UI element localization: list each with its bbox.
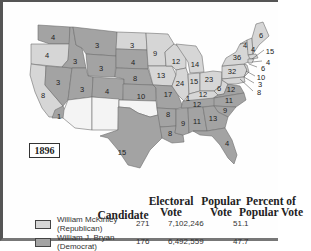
state-vote-label-fl: 4 <box>225 139 229 148</box>
state-vote-label-la: 8 <box>168 129 172 138</box>
state-vote-label-sd: 4 <box>131 58 135 67</box>
popular-vote: 6,492,559 <box>168 237 204 246</box>
electoral-vote: 176 <box>136 237 149 246</box>
state-vote-label-ca-split: 1 <box>57 112 61 121</box>
state-vote-label-mt: 3 <box>95 41 99 50</box>
state-vote-label-wi: 12 <box>172 57 180 66</box>
candidate-name: William J. Bryan(Democrat) <box>57 233 114 251</box>
state-or <box>31 44 70 67</box>
state-fl <box>193 128 237 164</box>
state-vote-label-il: 24 <box>176 79 184 88</box>
header-percent: Percent ofPopular Vote <box>231 196 311 218</box>
state-vote-label-ut: 3 <box>80 85 84 94</box>
state-vote-label-sc: 9 <box>223 106 227 115</box>
state-vote-label-mo: 17 <box>164 90 172 99</box>
state-vote-label-nd: 3 <box>130 41 134 50</box>
state-vote-label-ar: 8 <box>166 110 170 119</box>
state-vote-label-co: 4 <box>105 87 109 96</box>
callout-line-ct <box>249 64 257 67</box>
state-vote-label-wy: 3 <box>99 64 103 73</box>
candidate-name: William McKinley(Republican) <box>57 215 117 233</box>
legend-swatch <box>35 238 51 247</box>
state-vote-label-ri: 4 <box>266 58 270 67</box>
state-vote-label-vt: 4 <box>243 41 247 50</box>
percent-vote: 47.7 <box>233 237 249 246</box>
state-vote-label-md: 8 <box>257 88 261 97</box>
state-vote-label-al: 11 <box>193 117 201 126</box>
state-vote-label-ks: 10 <box>137 92 145 101</box>
state-vote-label-ky: 12 <box>199 90 207 99</box>
state-vote-label-ky-split: 1 <box>186 94 190 103</box>
electoral-vote: 271 <box>136 219 149 228</box>
state-vote-label-oh: 23 <box>205 75 213 84</box>
state-vote-label-in: 15 <box>190 77 198 86</box>
state-vote-label-wv: 6 <box>217 84 221 93</box>
header-electoral-vote: ElectoralVote <box>145 196 197 218</box>
state-vote-label-nv: 3 <box>56 78 60 87</box>
state-vote-label-id: 3 <box>73 57 77 66</box>
state-vote-label-me: 6 <box>259 31 263 40</box>
state-nm <box>92 97 119 130</box>
state-vote-label-tx: 15 <box>118 148 126 157</box>
state-az <box>63 97 92 130</box>
state-vote-label-nh: 4 <box>251 45 255 54</box>
state-vote-label-nc: 11 <box>225 96 233 105</box>
callout-line-de <box>244 77 254 83</box>
state-vote-label-mi: 14 <box>191 60 199 69</box>
legend-swatch <box>35 220 51 229</box>
state-vote-label-ct: 6 <box>261 64 265 73</box>
state-vote-label-ia: 13 <box>157 71 165 80</box>
state-vote-label-ny: 36 <box>233 53 241 62</box>
state-vote-label-pa: 32 <box>228 67 236 76</box>
state-vote-label-tn: 12 <box>193 100 201 109</box>
year-label: 1896 <box>29 143 60 158</box>
percent-vote: 51.1 <box>233 219 249 228</box>
state-vote-label-ms: 9 <box>181 119 185 128</box>
state-vote-label-va: 12 <box>227 85 235 94</box>
callout-line-ri <box>252 61 262 62</box>
state-vote-label-wa: 4 <box>51 33 55 42</box>
state-ct <box>248 59 254 63</box>
state-vote-label-mn: 9 <box>153 49 157 58</box>
state-vote-label-ma: 15 <box>266 47 274 56</box>
state-vote-label-ga: 13 <box>209 114 217 123</box>
state-vote-label-ne: 8 <box>133 74 137 83</box>
state-vote-label-ca: 8 <box>41 91 45 100</box>
popular-vote: 7,102,246 <box>168 219 204 228</box>
state-vote-label-or: 4 <box>45 51 49 60</box>
